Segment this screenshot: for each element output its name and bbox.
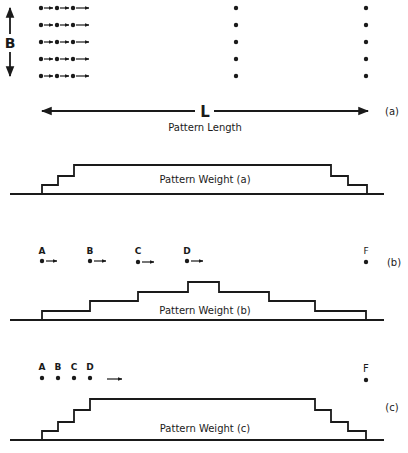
dot-row xyxy=(39,23,89,27)
points-row-c: A B C D F xyxy=(39,362,370,382)
width-label: B xyxy=(5,35,16,51)
end-dot-column xyxy=(364,6,368,78)
middle-dot-column xyxy=(234,6,238,78)
weight-label-b: Pattern Weight (b) xyxy=(159,305,250,316)
point-label-a: A xyxy=(39,246,46,256)
length-label: L xyxy=(200,103,210,121)
panel-c-tag: (c) xyxy=(385,402,398,413)
dot-row xyxy=(39,40,89,44)
weight-label-a: Pattern Weight (a) xyxy=(159,174,250,185)
panel-a-tag: (a) xyxy=(385,106,399,117)
point-label-b: B xyxy=(55,362,62,372)
point-label-c: C xyxy=(135,246,142,256)
pattern-weight-diagram: B xyxy=(0,0,408,453)
points-row-b: A B C D F xyxy=(39,246,369,264)
weight-label-c: Pattern Weight (c) xyxy=(160,423,251,434)
point-label-f: F xyxy=(363,363,369,374)
point-label-c: C xyxy=(71,362,78,372)
point-label-f: F xyxy=(363,246,368,256)
point-label-d: D xyxy=(86,362,93,372)
dot-row xyxy=(39,74,89,78)
point-label-a: A xyxy=(39,362,46,372)
panel-b-tag: (b) xyxy=(387,257,401,268)
dot-row xyxy=(39,6,89,10)
point-label-b: B xyxy=(87,246,94,256)
length-caption: Pattern Length xyxy=(168,122,242,133)
point-label-d: D xyxy=(183,246,190,256)
moving-dot-grid xyxy=(39,6,89,78)
dot-row xyxy=(39,57,89,61)
